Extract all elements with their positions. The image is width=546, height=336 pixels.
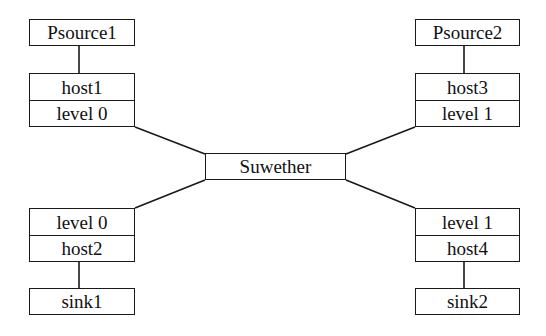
suwether-hub-node: Suwether [205,153,346,180]
edge-level1-bottom-hub [346,180,415,208]
host2-level-cell: level 0 [30,209,134,235]
host3-stack: host3 level 1 [415,73,520,127]
host1-stack: host1 level 0 [29,73,135,127]
host4-stack: level 1 host4 [415,208,520,262]
edge-level0-top-hub [135,127,205,154]
suwether-label: Suwether [240,157,312,176]
sink1-node: sink1 [29,288,135,315]
host2-cell: host2 [30,235,134,261]
host2-stack: level 0 host2 [29,208,135,262]
psource1-node: Psource1 [29,19,135,46]
psource1-label: Psource1 [47,23,117,42]
sink2-node: sink2 [415,288,520,315]
host3-level-cell: level 1 [416,100,519,126]
host4-cell: host4 [416,235,519,261]
host4-level-cell: level 1 [416,209,519,235]
sink2-label: sink2 [447,292,488,311]
edge-level1-top-hub [346,127,415,154]
psource2-node: Psource2 [415,19,520,46]
host1-level-cell: level 0 [30,100,134,126]
sink1-label: sink1 [61,292,102,311]
host3-cell: host3 [416,74,519,100]
host1-cell: host1 [30,74,134,100]
edge-level0-bottom-hub [135,180,205,208]
psource2-label: Psource2 [433,23,503,42]
